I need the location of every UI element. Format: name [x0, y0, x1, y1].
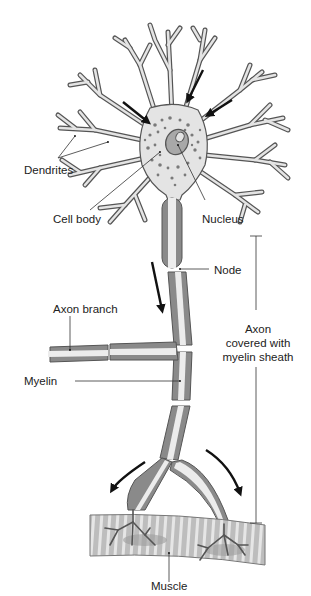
arrow-right [208, 100, 232, 115]
label-axon-branch: Axon branch [53, 302, 118, 316]
cell-body [140, 104, 208, 200]
arrow-axon-down [152, 262, 162, 310]
label-axon-line3: myelin sheath [218, 350, 298, 364]
label-cell-body: Cell body [53, 212, 101, 226]
label-node: Node [214, 263, 242, 277]
label-myelin: Myelin [24, 374, 57, 388]
axon [48, 198, 228, 525]
label-nucleus: Nucleus [202, 212, 244, 226]
label-muscle: Muscle [151, 579, 187, 593]
label-axon-myelin-sheath: Axon covered with myelin sheath [218, 322, 298, 364]
label-axon-line2: covered with [218, 336, 298, 350]
muscle [90, 514, 265, 565]
neuron-diagram [0, 0, 311, 596]
label-axon-line1: Axon [218, 322, 298, 336]
label-dendrites: Dendrites [24, 163, 73, 177]
